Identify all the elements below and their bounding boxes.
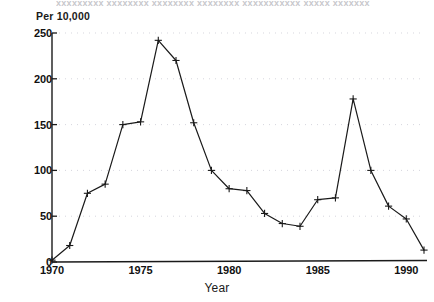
y-tick-marks: [52, 33, 57, 262]
plot-area: [0, 0, 434, 302]
axis-lines: [52, 33, 427, 262]
data-series-line: [52, 40, 424, 260]
line-chart-figure: xxxxxxxxx xxxxxxxx xxxxxxxx xxxxxxxx xxx…: [0, 0, 434, 302]
x-axis-label: Year: [0, 281, 434, 295]
gridlines: [53, 33, 424, 216]
data-point-markers: [48, 37, 427, 264]
